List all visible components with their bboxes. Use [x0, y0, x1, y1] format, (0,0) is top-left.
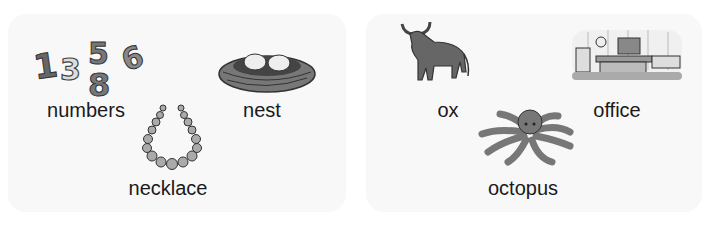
word-nest: nest: [243, 99, 281, 122]
svg-text:1: 1: [31, 44, 60, 87]
svg-text:6: 6: [117, 38, 149, 78]
octopus-icon: [478, 108, 578, 168]
office-icon: [568, 26, 688, 86]
word-octopus: octopus: [488, 177, 558, 200]
word-numbers: numbers: [47, 99, 125, 122]
svg-text:3: 3: [60, 52, 81, 87]
numbers-icon: 1 3 5 8 6: [34, 28, 154, 98]
necklace-icon: [138, 104, 208, 170]
ox-icon: [400, 20, 480, 96]
word-office: office: [593, 99, 640, 122]
word-necklace: necklace: [129, 177, 208, 200]
word-ox: ox: [437, 99, 458, 122]
nest-icon: [217, 48, 317, 94]
